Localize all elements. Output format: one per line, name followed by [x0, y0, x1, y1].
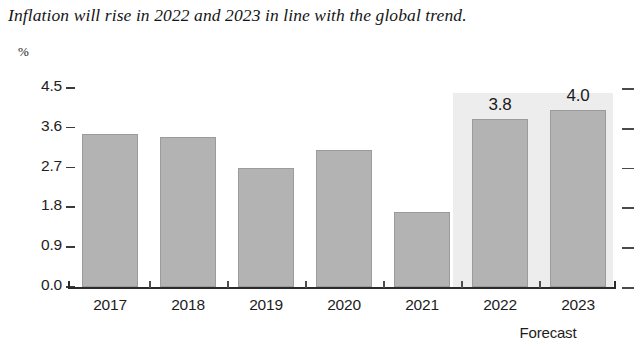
- x-axis-tick-mark: [461, 281, 463, 288]
- x-axis-label-2021: 2021: [382, 296, 462, 314]
- x-axis-tick-mark: [149, 281, 151, 288]
- y-axis-tick-mark: [66, 206, 75, 208]
- y-axis-tick-label: 1.8: [41, 196, 62, 214]
- x-axis-tick-mark: [305, 281, 307, 288]
- right-axis-tick-mark: [622, 287, 634, 289]
- x-axis-tick-mark: [383, 281, 385, 288]
- chart-title: Inflation will rise in 2022 and 2023 in …: [8, 4, 638, 26]
- bar-value-label-2022: 3.8: [460, 95, 540, 115]
- y-axis-tick-mark: [66, 87, 75, 89]
- y-axis-tick-mark: [66, 246, 75, 248]
- bar-2021: [394, 212, 450, 287]
- y-axis-tick-label: 2.7: [41, 157, 62, 175]
- right-axis-tick-mark: [622, 88, 634, 90]
- y-axis-tick-label: 0.9: [41, 236, 62, 254]
- x-axis-label-2019: 2019: [226, 296, 306, 314]
- x-axis-label-2020: 2020: [304, 296, 384, 314]
- y-axis-tick-label: 0.0: [41, 276, 62, 294]
- x-axis-label-2017: 2017: [70, 296, 150, 314]
- right-axis-tick-mark: [622, 168, 634, 170]
- right-axis-tick-mark: [622, 207, 634, 209]
- x-axis-right-cap: [614, 281, 616, 288]
- x-axis-left-cap: [68, 281, 70, 288]
- x-axis-label-2022: 2022: [460, 296, 540, 314]
- forecast-annotation: Forecast: [488, 324, 608, 341]
- x-axis-tick-mark: [227, 281, 229, 288]
- right-axis-tick-mark: [622, 128, 634, 130]
- x-axis-label-2018: 2018: [148, 296, 228, 314]
- y-axis-tick-mark: [66, 127, 75, 129]
- inflation-bar-chart: Inflation will rise in 2022 and 2023 in …: [0, 0, 644, 359]
- bar-2019: [238, 168, 294, 287]
- bar-2017: [82, 134, 138, 287]
- y-axis-tick-label: 4.5: [41, 77, 62, 95]
- bar-2023: [550, 110, 606, 287]
- y-axis-tick-label: 3.6: [41, 117, 62, 135]
- y-axis-tick-mark: [66, 167, 75, 169]
- right-axis-tick-mark: [622, 247, 634, 249]
- y-axis: 0.00.91.82.73.64.5: [0, 0, 80, 359]
- x-axis-tick-mark: [539, 281, 541, 288]
- bar-2022: [472, 119, 528, 287]
- x-axis-label-2023: 2023: [538, 296, 618, 314]
- bar-value-label-2023: 4.0: [538, 86, 618, 106]
- bar-2020: [316, 150, 372, 287]
- bar-2018: [160, 137, 216, 287]
